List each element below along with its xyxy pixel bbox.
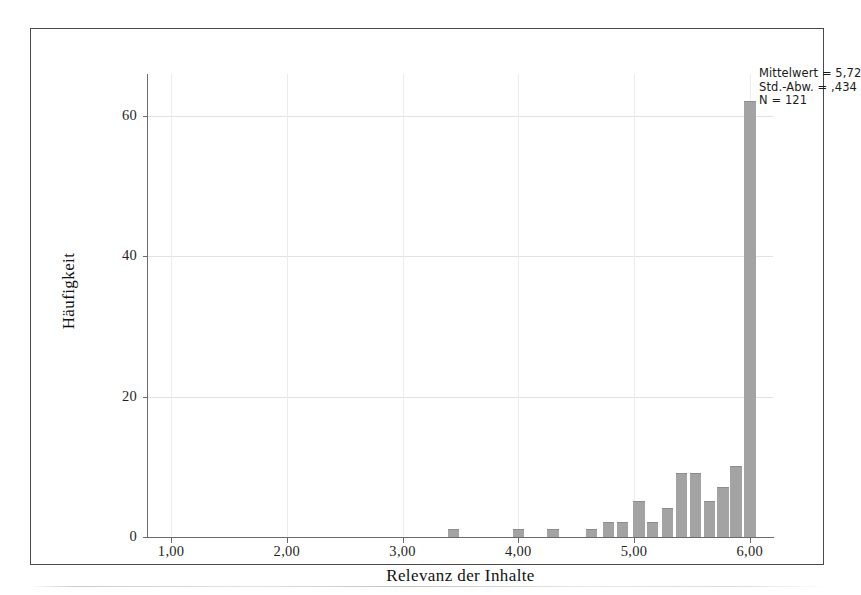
y-tick-label-text: 40	[122, 247, 137, 264]
x-tick-label: 6,00	[715, 543, 785, 560]
histogram-bar	[448, 529, 460, 537]
histogram-bar	[633, 501, 645, 537]
histogram-bar	[647, 522, 659, 537]
stat-n: N = 121	[759, 94, 861, 108]
x-axis-title: Relevanz der Inhalte	[148, 566, 773, 586]
plot-area	[148, 74, 773, 537]
y-tick-mark	[143, 116, 148, 117]
figure-frame: 0204060 1,002,003,004,005,006,00 Häufigk…	[30, 28, 824, 565]
stat-std-dev: Std.-Abw. = ,434	[759, 81, 861, 95]
y-axis-title: Häufigkeit	[59, 191, 79, 391]
histogram-bar	[717, 487, 729, 537]
x-tick-label: 3,00	[368, 543, 438, 560]
x-tick-label: 4,00	[483, 543, 553, 560]
histogram-bar	[513, 529, 525, 537]
y-tick-label: 60	[89, 107, 137, 123]
x-tick-label: 1,00	[136, 543, 206, 560]
stat-mean: Mittelwert = 5,72	[759, 67, 861, 81]
histogram-bar	[676, 473, 688, 537]
histogram-bar	[662, 508, 674, 537]
histogram-bar	[547, 529, 559, 537]
histogram-bar	[704, 501, 716, 537]
histogram-bar	[586, 529, 598, 537]
statistics-annotation: Mittelwert = 5,72 Std.-Abw. = ,434 N = 1…	[759, 67, 861, 108]
histogram-bar	[730, 466, 742, 537]
y-tick-label: 20	[89, 388, 137, 404]
x-axis-line	[147, 537, 774, 538]
y-tick-mark	[143, 537, 148, 538]
y-tick-mark	[143, 397, 148, 398]
histogram-bar	[690, 473, 702, 537]
y-tick-mark	[143, 256, 148, 257]
x-tick-label: 2,00	[252, 543, 322, 560]
histogram-bars	[148, 74, 773, 537]
histogram-bar	[744, 101, 756, 537]
y-tick-label-text: 60	[122, 107, 137, 124]
y-tick-label: 40	[89, 247, 137, 263]
scan-artifact-line	[28, 586, 828, 587]
histogram-bar	[617, 522, 629, 537]
histogram-bar	[603, 522, 615, 537]
y-tick-label-text: 20	[122, 388, 137, 405]
x-tick-label: 5,00	[599, 543, 669, 560]
y-tick-label: 0	[89, 528, 137, 544]
